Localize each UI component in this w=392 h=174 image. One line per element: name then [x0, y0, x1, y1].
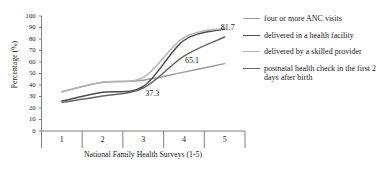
y-tick-label: 0 [20, 128, 36, 135]
legend-line-icon [243, 47, 260, 56]
data-label: 37.3 [145, 90, 159, 98]
legend-item-label: delivered by a skilled provider [264, 47, 362, 57]
x-axis-title: National Family Health Surveys (1-5) [38, 150, 248, 159]
axes [39, 16, 245, 148]
legend-item[interactable]: delivered by a skilled provider [243, 47, 392, 57]
y-tick-label: 20 [20, 105, 36, 112]
x-tick-label: 5 [215, 136, 235, 144]
series-line [62, 29, 225, 101]
legend-item[interactable]: delivered in a health facility [243, 31, 392, 41]
y-tick-label: 100 [20, 13, 36, 20]
legend-line-icon [243, 64, 260, 73]
legend-item-label: delivered in a health facility [264, 31, 354, 41]
legend-item-label: postnatal health check in the first 2 da… [264, 64, 392, 83]
x-tick-label: 1 [52, 136, 72, 144]
y-tick-label: 30 [20, 93, 36, 100]
y-tick-label: 60 [20, 59, 36, 66]
y-tick-label: 10 [20, 116, 36, 123]
x-tick-label: 2 [93, 136, 113, 144]
data-series-group [62, 28, 225, 102]
y-tick-label: 80 [20, 36, 36, 43]
data-label: 65.1 [185, 57, 199, 65]
y-axis-title: Percentage (%) [10, 20, 19, 110]
y-tick-label: 50 [20, 70, 36, 77]
data-label: 81.7 [221, 24, 235, 32]
legend-item-label: four or more ANC visits [264, 14, 342, 24]
x-tick-label: 3 [133, 136, 153, 144]
series-line [62, 37, 225, 102]
chart-legend: four or more ANC visitsdelivered in a he… [243, 14, 392, 90]
y-tick-label: 70 [20, 47, 36, 54]
legend-line-icon [243, 31, 260, 40]
x-tick-label: 4 [174, 136, 194, 144]
legend-item[interactable]: four or more ANC visits [243, 14, 392, 24]
y-tick-label: 90 [20, 24, 36, 31]
chart-figure: Percentage (%) National Family Health Su… [0, 0, 392, 174]
legend-line-icon [243, 14, 260, 23]
y-tick-label: 40 [20, 82, 36, 89]
series-line [62, 28, 225, 91]
legend-item[interactable]: postnatal health check in the first 2 da… [243, 64, 392, 83]
